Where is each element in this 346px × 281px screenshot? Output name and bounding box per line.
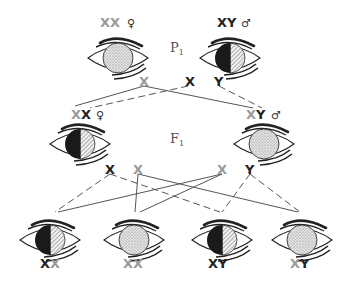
svg-text:P1: P1 xyxy=(170,40,184,57)
f2-genotype: XY xyxy=(290,256,310,271)
eye-stippled-icon xyxy=(272,221,332,261)
f1-cross-lines xyxy=(55,174,300,212)
generation-label-f1: F1 xyxy=(170,131,184,148)
eye-half-black-hatched-icon xyxy=(200,39,260,79)
eye-stippled-icon xyxy=(234,125,294,165)
f2-offspring-2: XX xyxy=(104,221,164,271)
f1-male-genotype: XY xyxy=(246,107,266,122)
f2-genotype: XX xyxy=(123,256,143,271)
gamete-x-grey: X xyxy=(217,162,227,177)
gamete-y: Y xyxy=(213,74,224,89)
eye-stippled-icon xyxy=(88,39,148,79)
female-symbol-icon: ♀ xyxy=(96,109,104,122)
eye-stippled-icon xyxy=(104,221,164,261)
f1-female-genotype: XX xyxy=(71,107,91,122)
gamete-x-black: X xyxy=(185,74,195,89)
p1-gametes: X X Y xyxy=(139,74,224,89)
f1-gametes: X X X Y xyxy=(105,162,255,177)
eye-half-black-hatched-icon xyxy=(192,221,252,261)
f1-female: XX ♀ xyxy=(50,107,110,165)
p1-female: XX ♀ xyxy=(88,15,148,79)
generation-label-p1: P1 xyxy=(170,40,184,57)
p1-male-genotype: XY xyxy=(217,15,237,30)
f2-genotype: XY xyxy=(208,256,228,271)
gamete-x-black: X xyxy=(105,162,115,177)
p1-cross-lines xyxy=(75,86,262,108)
svg-text:F1: F1 xyxy=(170,131,184,148)
f2-offspring-4: XY xyxy=(272,221,332,271)
inheritance-diagram: XX ♀ P1 XY ♂ X X Y XX ♀ F1 XY ♂ xyxy=(0,0,346,281)
male-symbol-icon: ♂ xyxy=(271,109,281,122)
f1-male: XY ♂ xyxy=(234,107,294,165)
male-symbol-icon: ♂ xyxy=(241,17,251,30)
female-symbol-icon: ♀ xyxy=(127,17,135,30)
eye-half-black-hatched-icon xyxy=(50,125,110,165)
p1-male: XY ♂ xyxy=(200,15,260,79)
f2-offspring-1: XX xyxy=(20,221,80,271)
f2-genotype: XX xyxy=(40,256,60,271)
f2-offspring-3: XY xyxy=(192,221,252,271)
eye-half-black-hatched-icon xyxy=(20,221,80,261)
p1-female-genotype: XX xyxy=(100,15,120,30)
gamete-y: Y xyxy=(244,162,255,177)
gamete-x-grey: X xyxy=(139,74,149,89)
gamete-x-grey: X xyxy=(133,162,143,177)
